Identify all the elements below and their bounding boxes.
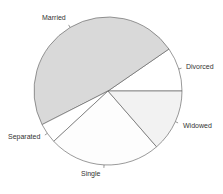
- label-single: Single: [81, 170, 100, 178]
- label-separated: Separated: [8, 133, 40, 141]
- pie-chart: Married Divorced Widowed Single Separate…: [0, 0, 223, 194]
- label-married: Married: [42, 14, 66, 22]
- label-tick: [175, 122, 178, 123]
- label-tick: [45, 133, 47, 135]
- label-widowed: Widowed: [183, 122, 212, 130]
- label-divorced: Divorced: [186, 63, 214, 71]
- label-tick: [69, 25, 71, 28]
- label-tick: [179, 68, 182, 69]
- pie-plot-area: [0, 0, 223, 194]
